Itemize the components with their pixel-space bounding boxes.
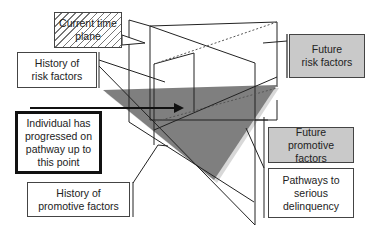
- history-promotive-factors-label: History of promotive factors: [38, 187, 119, 213]
- individual-progressed-label: Individual has progressed on pathway up …: [25, 117, 92, 169]
- current-time-plane-label: Current time plane: [59, 17, 117, 43]
- future-promotive-factors-box: Future promotive factors: [268, 127, 354, 163]
- pathways-delinquency-box: Pathways to serious delinquency: [268, 168, 354, 218]
- callout-tail: [122, 35, 145, 45]
- current-time-plane-box: Current time plane: [54, 12, 122, 48]
- pathways-delinquency-label: Pathways to serious delinquency: [282, 174, 339, 213]
- dotted-line-top: [154, 22, 277, 64]
- individual-progressed-box: Individual has progressed on pathway up …: [15, 111, 102, 174]
- history-risk-factors-box: History of risk factors: [17, 52, 97, 88]
- future-plane-outline: [150, 22, 277, 87]
- history-risk-factors-label: History of risk factors: [32, 57, 83, 83]
- future-risk-factors-label: Future risk factors: [302, 43, 353, 69]
- history-promotive-factors-box: History of promotive factors: [27, 182, 130, 217]
- future-risk-factors-box: Future risk factors: [289, 34, 365, 78]
- future-promotive-factors-label: Future promotive factors: [288, 126, 334, 165]
